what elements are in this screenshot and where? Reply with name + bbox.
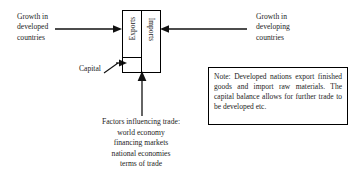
trade-box-vertical-divider (141, 11, 142, 72)
trade-box-horizontal-divider (123, 57, 141, 58)
factors-influencing-trade-label: Factors influencing trade: world economy… (56, 117, 226, 170)
exports-label: Exports (128, 11, 137, 47)
arrow-up-icon (134, 70, 150, 116)
capital-label: Capital (79, 64, 111, 74)
growth-developing-countries-label: Growth in developing countries (256, 12, 326, 43)
note-text: Note: Developed nations export finished … (214, 72, 342, 112)
arrow-left-icon (159, 22, 247, 36)
note-box: Note: Developed nations export finished … (208, 67, 348, 125)
diagram-canvas: Growth in developed countries Growth in … (0, 0, 359, 182)
trade-box: Exports Imports (122, 10, 161, 73)
arrow-right-icon (55, 22, 123, 36)
imports-label: Imports (147, 12, 156, 48)
